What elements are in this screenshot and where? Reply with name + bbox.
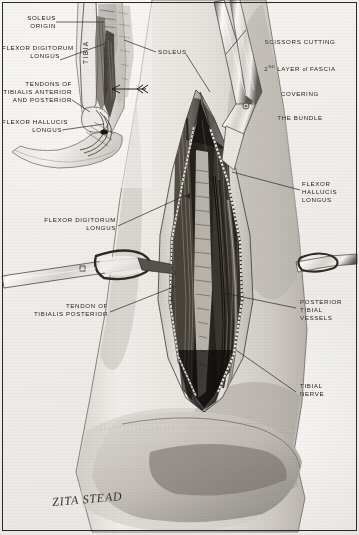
- scissors-line-2: 2ND LAYER of FASCIA: [248, 63, 352, 73]
- label-posterior-tibial-vessels: POSTERIOR TIBIAL VESSELS: [300, 298, 356, 323]
- label-flexor-hallucis-longus-inset: FLEXOR HALLUCIS LONGUS: [2, 118, 62, 134]
- label-flexor-digitorum-longus-inset: FLEXOR DIGITORUM LONGUS: [2, 44, 60, 60]
- label-tibia: TIBIA: [82, 41, 89, 64]
- label-soleus-origin: SOLEUS ORIGIN: [2, 14, 56, 30]
- label-soleus: SOLEUS: [158, 48, 187, 56]
- label-scissors-cutting: SCISSORS CUTTING 2ND LAYER of FASCIA COV…: [248, 22, 352, 139]
- label-flexor-digitorum-longus-main: FLEXOR DIGITORUM LONGUS: [14, 216, 116, 232]
- scissors-line-3: COVERING: [248, 90, 352, 98]
- scissors-line-1: SCISSORS CUTTING: [248, 38, 352, 46]
- label-tibial-nerve: TIBIAL NERVE: [300, 382, 350, 398]
- anatomical-plate: SOLEUS ORIGIN FLEXOR DIGITORUM LONGUS TE…: [0, 0, 359, 535]
- scissors-line-4: THE BUNDLE: [248, 114, 352, 122]
- label-tendon-of-tibialis-posterior: TENDON OF TIBIALIS POSTERIOR: [4, 302, 108, 318]
- label-flexor-hallucis-longus-main: FLEXOR HALLUCIS LONGUS: [302, 180, 356, 205]
- label-tendons-tibialis-anterior-posterior: TENDONS OF TIBIALIS ANTERIOR AND POSTERI…: [2, 80, 72, 105]
